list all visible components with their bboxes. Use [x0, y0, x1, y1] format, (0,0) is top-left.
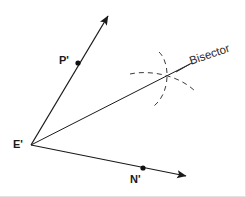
figure-border-right: [245, 0, 246, 197]
point-dot-p-prime: [75, 60, 80, 65]
geometry-figure: E' P' N' Bisector: [0, 0, 246, 197]
ray-e-to-n: [31, 145, 186, 176]
label-p-prime: P': [59, 55, 69, 66]
label-e-prime: E': [13, 139, 23, 150]
point-dot-n-prime: [140, 165, 145, 170]
bisector-leader-line: [176, 64, 190, 72]
label-n-prime: N': [130, 174, 141, 185]
geometry-canvas: [0, 0, 246, 197]
figure-border-bottom: [0, 196, 246, 197]
